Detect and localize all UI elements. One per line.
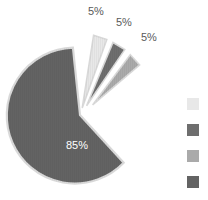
pie-label-series-1: 5% [88, 6, 104, 17]
pie-label-series-2: 5% [116, 17, 132, 28]
legend-swatch-series-2 [187, 124, 199, 136]
legend-swatch-series-3 [187, 150, 199, 162]
pie-label-series-3: 5% [141, 32, 157, 43]
legend-swatch-series-1 [187, 98, 199, 110]
pie-chart: 5% 5% 5% 85% [0, 0, 208, 200]
chart-legend [187, 98, 201, 200]
legend-item-series-2[interactable] [187, 124, 199, 136]
pie-chart-canvas [0, 0, 208, 200]
legend-swatch-series-4 [187, 176, 199, 188]
legend-item-series-3[interactable] [187, 150, 199, 162]
legend-item-series-4[interactable] [187, 176, 199, 188]
legend-item-series-1[interactable] [187, 98, 199, 110]
pie-label-series-4: 85% [66, 140, 88, 151]
